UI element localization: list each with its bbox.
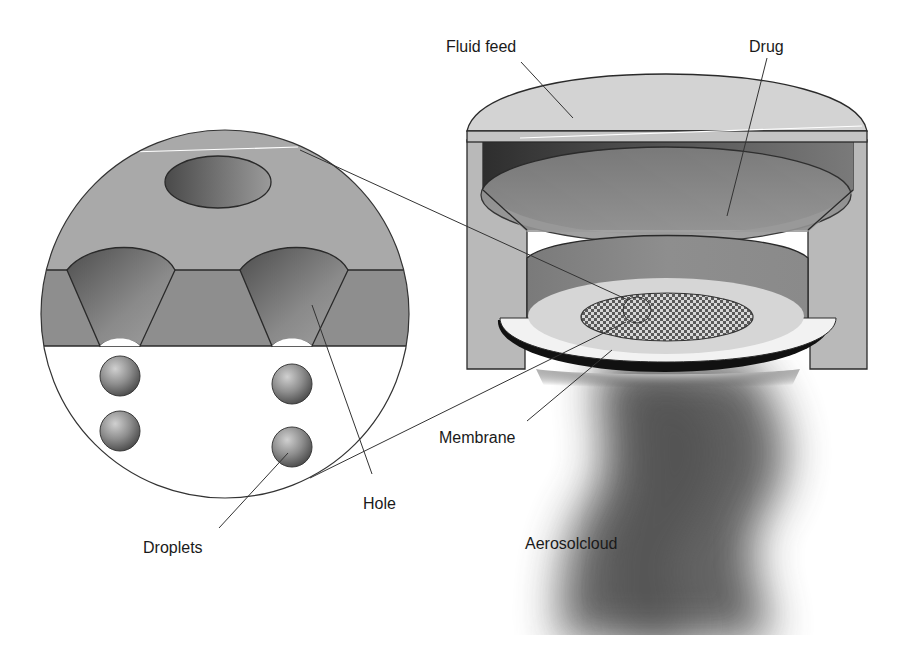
droplet <box>100 411 140 451</box>
droplet <box>272 427 312 467</box>
mesh-grid <box>581 293 753 341</box>
label-hole: Hole <box>363 495 396 512</box>
droplet <box>272 364 312 404</box>
nebulizer-housing <box>467 74 867 390</box>
label-drug: Drug <box>749 38 784 55</box>
label-fluid-feed: Fluid feed <box>446 38 516 55</box>
droplet <box>100 356 140 396</box>
detail-hole-opening <box>165 156 271 208</box>
nebulizer-diagram: Fluid feed Drug Membrane Hole Droplets A… <box>0 0 904 659</box>
label-droplets: Droplets <box>143 539 203 556</box>
magnified-detail <box>40 128 410 500</box>
label-membrane: Membrane <box>439 429 516 446</box>
aerosol-cloud <box>560 360 785 640</box>
label-aerosol-cloud: Aerosolcloud <box>525 535 618 552</box>
fluid-feed-lid <box>467 74 867 131</box>
